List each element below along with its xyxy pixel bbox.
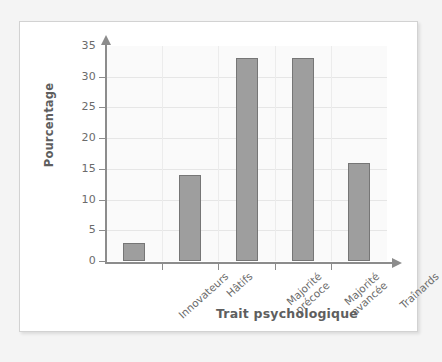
- x-axis-tick: [275, 263, 276, 270]
- bar: [292, 58, 314, 261]
- y-axis-tick-labels: 05101520253035: [20, 22, 96, 331]
- figure-card: 05101520253035 InnovateursHâtifsMajorité…: [19, 21, 418, 332]
- x-axis-line: [105, 262, 394, 264]
- bar: [179, 175, 201, 261]
- x-axis-tick: [218, 263, 219, 270]
- bar: [123, 243, 145, 261]
- bar: [236, 58, 258, 261]
- y-axis-tick-label: 35: [26, 39, 96, 52]
- x-axis-arrowhead-icon: [392, 258, 402, 268]
- y-axis-title: Pourcentage: [42, 70, 56, 180]
- y-axis-tick: [99, 77, 106, 78]
- y-axis-tick: [99, 107, 106, 108]
- y-axis-tick-label: 15: [26, 162, 96, 175]
- y-axis-arrowhead-icon: [101, 35, 111, 45]
- y-axis-tick-label: 25: [26, 100, 96, 113]
- x-axis-tick: [162, 263, 163, 270]
- x-axis-tick: [331, 263, 332, 270]
- gridline-vertical: [331, 46, 332, 261]
- y-axis-tick: [99, 261, 106, 262]
- category-label-line: Hâtifs: [224, 270, 255, 299]
- y-axis-tick: [99, 200, 106, 201]
- y-axis-tick-label: 0: [26, 254, 96, 267]
- x-axis-title: Trait psychologique: [216, 306, 358, 321]
- category-label: Traînards: [397, 270, 441, 311]
- category-label-line: Traînards: [397, 270, 441, 311]
- gridline-vertical: [162, 46, 163, 261]
- y-axis-tick: [99, 230, 106, 231]
- y-axis-tick-label: 20: [26, 131, 96, 144]
- bar: [348, 163, 370, 261]
- y-axis-tick-label: 5: [26, 223, 96, 236]
- y-axis-tick-label: 10: [26, 193, 96, 206]
- gridline-vertical: [218, 46, 219, 261]
- plot-area: [106, 46, 387, 261]
- category-label: Hâtifs: [224, 270, 255, 299]
- y-axis-tick: [99, 169, 106, 170]
- y-axis-tick: [99, 138, 106, 139]
- gridline-vertical: [275, 46, 276, 261]
- y-axis-tick-label: 30: [26, 70, 96, 83]
